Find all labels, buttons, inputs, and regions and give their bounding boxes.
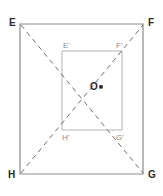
center-point-label-O: O: [90, 82, 98, 92]
figure-canvas: [0, 0, 163, 196]
vertex-label-E: E: [9, 18, 16, 28]
vertex-label-H: H: [8, 170, 15, 180]
vertex-label-H-prime: H': [62, 134, 69, 142]
vertex-label-G-prime: G': [116, 134, 124, 142]
vertex-label-G: G: [148, 170, 156, 180]
vertex-label-F-prime: F': [116, 42, 122, 50]
center-point-marker: [99, 85, 102, 88]
vertex-label-F: F: [148, 18, 154, 28]
geometry-figure: E F G H E' F' G' H' O: [0, 0, 163, 196]
vertex-label-E-prime: E': [63, 42, 70, 50]
